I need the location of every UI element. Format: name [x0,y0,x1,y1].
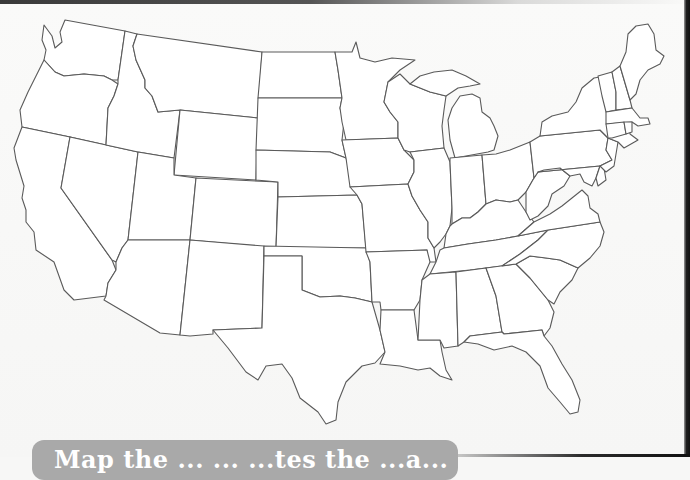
page-right-edge [684,0,690,457]
page-bottom-edge [420,454,690,457]
caption-banner: Map the ... ... ...tes the ...a... [32,440,458,480]
state-kansas[interactable] [276,195,366,248]
state-florida[interactable] [464,330,580,414]
state-mississippi[interactable] [418,272,458,348]
state-wyoming[interactable] [174,110,258,180]
state-south-dakota[interactable] [256,98,346,158]
state-rhode-island[interactable] [624,122,632,134]
state-north-dakota[interactable] [258,52,342,98]
state-maine[interactable] [620,24,664,100]
state-colorado[interactable] [190,178,278,248]
state-new-mexico[interactable] [180,240,264,336]
caption-text: Map the ... ... ...tes the ...a... [54,445,448,474]
